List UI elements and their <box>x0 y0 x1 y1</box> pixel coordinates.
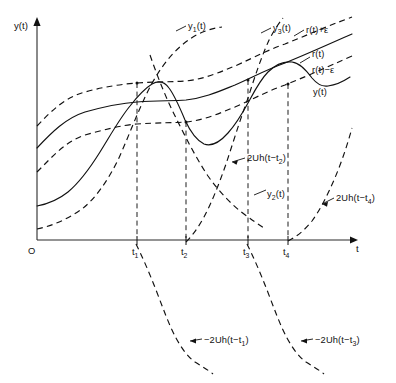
curve-y <box>37 62 350 206</box>
leader-line-r-minus-eps <box>300 57 310 63</box>
intersection-dot-t3 <box>247 79 250 82</box>
leader-arrow-neg-step-t3 <box>301 339 307 344</box>
curve-r <box>37 34 352 148</box>
y-axis-arrowhead <box>33 17 40 26</box>
curve-y1 <box>37 27 222 229</box>
figure-container: y(t) t O t1 t2 t3 t4 y1(t) y3(t) y2(t) r… <box>0 0 396 383</box>
curve-step-t4 <box>288 128 352 241</box>
curve-label-r: r(t) <box>312 49 324 59</box>
annotation-neg-step-t3: −2Uh(t−t3) <box>315 335 360 347</box>
intersection-dot-t2 <box>185 121 188 124</box>
curve-label-y1: y1(t) <box>188 21 206 33</box>
curve-label-r-plus-epsilon: r(t)+ε <box>306 25 328 35</box>
leader-arrow-neg-step-t1 <box>190 339 196 344</box>
leader-line-step-t2 <box>232 158 245 162</box>
x-axis-label: t <box>356 243 359 254</box>
curve-y3-step-t2 <box>186 18 283 242</box>
tick-label-t4: t4 <box>283 246 290 259</box>
leader-line-y2 <box>254 190 266 195</box>
curve-r-minus-epsilon <box>37 56 352 172</box>
tick-label-t2: t2 <box>181 246 188 259</box>
annotation-step-t4: 2Uh(t−t4) <box>336 193 375 205</box>
response-diagram: y(t) t O t1 t2 t3 t4 y1(t) y3(t) y2(t) r… <box>0 0 396 383</box>
curve-label-y3: y3(t) <box>273 23 291 35</box>
intersection-dot-t4 <box>287 83 290 86</box>
annotation-step-t2: 2Uh(t−t2) <box>247 153 286 165</box>
leader-line-y3 <box>261 28 271 33</box>
curve-label-y: y(t) <box>313 87 327 97</box>
axes-group <box>33 17 358 244</box>
leader-line-r-plus-eps <box>294 30 304 36</box>
leader-line-y1 <box>176 26 186 31</box>
curve-neg-step-t3 <box>247 244 324 374</box>
intersection-dot-t1 <box>136 82 139 85</box>
curve-label-y2: y2(t) <box>267 189 285 201</box>
leader-lines-group <box>176 26 334 343</box>
y-axis-label: y(t) <box>14 20 28 31</box>
annotation-neg-step-t1: −2Uh(t−t1) <box>204 335 249 347</box>
curve-label-r-minus-epsilon: r(t)−ε <box>312 65 334 75</box>
origin-label: O <box>28 245 35 256</box>
curve-neg-step-t1 <box>136 244 213 374</box>
curve-r-plus-epsilon <box>37 17 352 126</box>
